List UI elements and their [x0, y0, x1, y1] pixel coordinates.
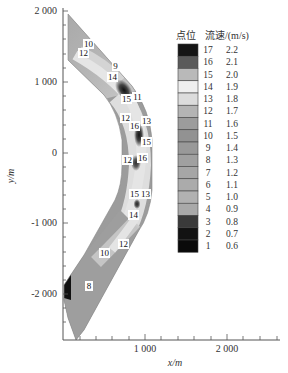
legend-level: 15: [203, 70, 213, 80]
legend-swatch: [178, 81, 198, 93]
y-tick-label: 2 000: [35, 5, 58, 16]
svg-text:16: 16: [138, 153, 148, 163]
svg-text:9: 9: [113, 61, 118, 71]
svg-text:14: 14: [108, 72, 118, 82]
y-axis-title: y/m: [5, 169, 16, 184]
legend-swatch: [178, 191, 198, 203]
svg-text:15: 15: [142, 137, 152, 147]
svg-text:12: 12: [121, 113, 130, 123]
legend-level: 14: [203, 82, 213, 92]
contour-label: 16: [129, 121, 140, 131]
legend-item: 20.7: [178, 228, 238, 240]
legend-level: 6: [206, 180, 211, 190]
legend-level: 13: [203, 94, 213, 104]
svg-text:11: 11: [133, 92, 142, 102]
contour-label: 15: [121, 94, 132, 104]
y-tick-label: 0: [52, 147, 57, 158]
legend-item: 10.6: [178, 240, 238, 252]
x-axis: 1 000 2 000 x/m: [63, 334, 280, 368]
legend-level: 17: [203, 45, 213, 55]
contour-label: 11: [132, 92, 143, 102]
legend-item: 40.9: [178, 203, 238, 215]
legend-swatch: [178, 228, 198, 240]
legend-speed: 2.0: [226, 70, 238, 80]
y-tick-label: -1 000: [31, 217, 57, 228]
y-axis: 2 000 1 000 0 -1 000 -2 000 y/m: [5, 5, 68, 340]
legend-speed: 1.7: [226, 106, 238, 116]
legend-speed: 2.2: [226, 45, 238, 55]
legend-speed: 1.4: [226, 143, 238, 153]
legend-speed: 0.9: [226, 204, 238, 214]
legend-item: 51.0: [178, 191, 238, 203]
legend-level: 16: [203, 57, 213, 67]
legend-swatch: [178, 179, 198, 191]
legend-header-point: 点位: [176, 29, 196, 41]
contour-label: 14: [128, 210, 139, 220]
legend: 点位 流速/(m/s) 172.2162.1152.0141.9131.8121…: [176, 29, 249, 252]
legend-level: 8: [206, 155, 211, 165]
legend-speed: 2.1: [226, 57, 238, 67]
contour-label: 10: [99, 248, 110, 258]
contour-chart: 2 000 1 000 0 -1 000 -2 000 y/m 1 000 2 …: [0, 0, 288, 373]
svg-text:10: 10: [100, 248, 110, 258]
svg-text:13: 13: [142, 116, 152, 126]
legend-swatch: [178, 154, 198, 166]
legend-item: 121.7: [178, 105, 238, 117]
legend-item: 101.5: [178, 130, 238, 142]
contour-label: 8: [85, 281, 93, 291]
contour-label: 12: [122, 155, 133, 165]
legend-swatch: [178, 105, 198, 117]
contour-label: 12: [78, 48, 89, 58]
svg-text:12: 12: [123, 155, 132, 165]
legend-speed: 1.1: [226, 180, 238, 190]
legend-swatch: [178, 44, 198, 56]
contour-label: 13: [141, 116, 152, 126]
contour-label: 14: [107, 72, 118, 82]
legend-header-speed: 流速/(m/s): [205, 29, 249, 42]
contour-label: 12: [118, 239, 129, 249]
legend-item: 162.1: [178, 56, 238, 68]
legend-level: 4: [206, 204, 211, 214]
legend-speed: 0.7: [226, 229, 238, 239]
legend-level: 11: [203, 119, 212, 129]
legend-swatch: [178, 130, 198, 142]
svg-text:8: 8: [87, 281, 92, 291]
legend-level: 10: [203, 131, 213, 141]
legend-level: 12: [203, 106, 213, 116]
legend-level: 2: [206, 229, 211, 239]
legend-speed: 1.6: [226, 119, 238, 129]
legend-swatch: [178, 216, 198, 228]
contour-label: 9: [112, 61, 119, 71]
legend-speed: 0.8: [226, 217, 238, 227]
y-tick-label: -2 000: [31, 288, 57, 299]
legend-item: 81.3: [178, 154, 238, 166]
contour-label: 16: [137, 153, 148, 163]
legend-swatch: [178, 118, 198, 130]
velocity-contour-field: [60, 0, 160, 345]
legend-speed: 0.6: [226, 241, 238, 251]
x-tick-label: 2 000: [216, 343, 239, 354]
legend-swatch: [178, 142, 198, 154]
legend-level: 5: [206, 192, 211, 202]
legend-level: 7: [206, 168, 211, 178]
svg-text:16: 16: [130, 121, 140, 131]
legend-swatch: [178, 240, 198, 252]
legend-swatch: [178, 93, 198, 105]
legend-item: 30.8: [178, 216, 238, 228]
legend-item: 152.0: [178, 69, 238, 81]
svg-text:15: 15: [122, 94, 132, 104]
legend-item: 172.2: [178, 44, 238, 56]
legend-level: 9: [206, 143, 211, 153]
legend-swatch: [178, 69, 198, 81]
y-tick-label: 1 000: [35, 76, 58, 87]
svg-text:15: 15: [130, 189, 140, 199]
legend-speed: 1.8: [226, 94, 238, 104]
svg-text:13: 13: [141, 189, 151, 199]
legend-item: 141.9: [178, 81, 238, 93]
contour-label: 15: [129, 189, 140, 199]
legend-speed: 1.9: [226, 82, 238, 92]
legend-item: 131.8: [178, 93, 238, 105]
legend-speed: 1.0: [226, 192, 238, 202]
legend-item: 71.2: [178, 167, 238, 179]
legend-swatch: [178, 203, 198, 215]
